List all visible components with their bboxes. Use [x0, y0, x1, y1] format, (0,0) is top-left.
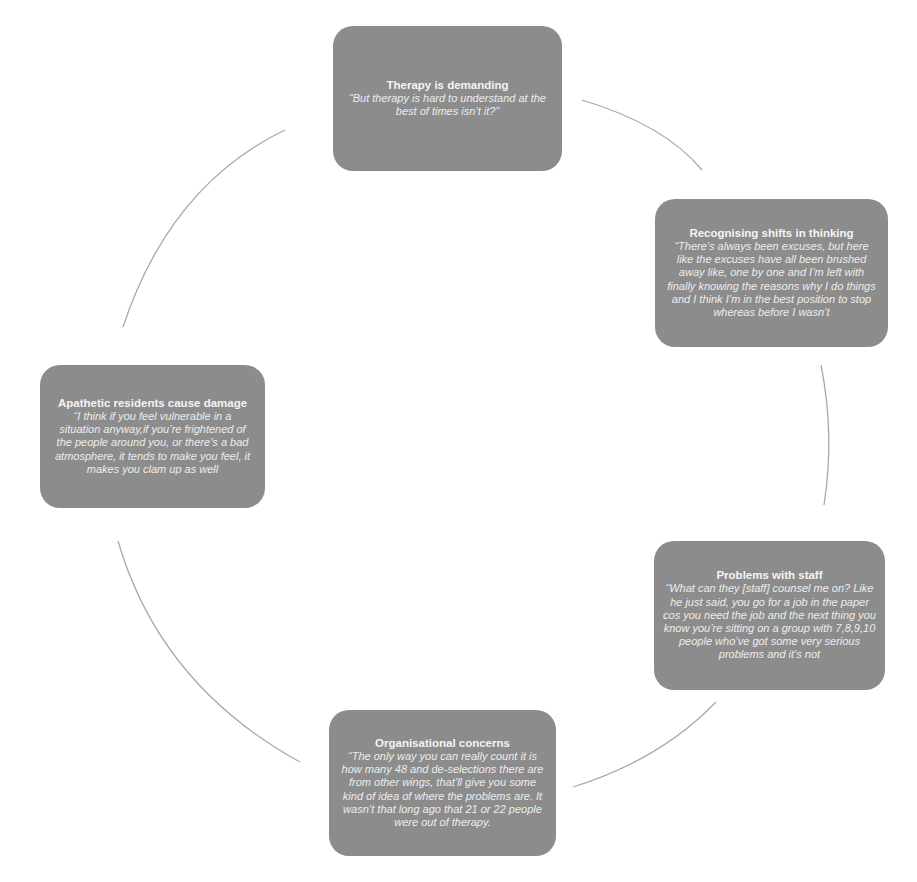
connector-therapy-to-recognising: [582, 100, 702, 170]
node-title: Organisational concerns: [375, 737, 510, 750]
node-title: Apathetic residents cause damage: [58, 397, 247, 410]
node-quote: “I think if you feel vulnerable in a sit…: [52, 410, 253, 476]
node-recognising-shifts: Recognising shifts in thinking “There’s …: [655, 199, 888, 347]
node-quote: “But therapy is hard to understand at th…: [347, 92, 548, 118]
node-organisational-concerns: Organisational concerns “The only way yo…: [329, 710, 556, 856]
connector-apathetic-to-therapy: [123, 130, 285, 327]
connector-problems-to-organisational: [573, 702, 716, 787]
connector-organisational-to-apathetic: [118, 541, 300, 762]
node-therapy-demanding: Therapy is demanding “But therapy is har…: [333, 26, 562, 171]
connector-recognising-to-problems: [821, 365, 829, 505]
node-problems-staff: Problems with staff “What can they [staf…: [654, 541, 885, 690]
node-apathetic-residents: Apathetic residents cause damage “I thin…: [40, 365, 265, 508]
node-title: Problems with staff: [716, 569, 822, 582]
node-title: Therapy is demanding: [386, 79, 508, 92]
node-title: Recognising shifts in thinking: [689, 227, 853, 240]
node-quote: “There’s always been excuses, but here l…: [665, 240, 878, 319]
node-quote: “The only way you can really count it is…: [338, 750, 547, 829]
node-quote: “What can they [staff] counsel me on? Li…: [663, 582, 876, 661]
